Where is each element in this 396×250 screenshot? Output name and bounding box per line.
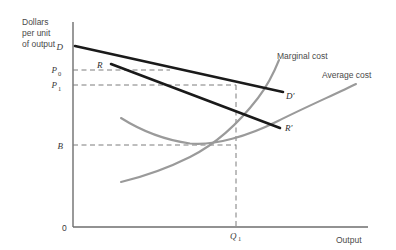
y-tick-b: B (58, 141, 64, 151)
average-cost-label: Average cost (322, 70, 372, 80)
x-tick-q1-sub: 1 (238, 235, 241, 242)
x-axis-label: Output (336, 235, 362, 245)
chart-canvas: Dollars per unit of output Output 0 D P … (0, 0, 396, 250)
y-tick-p1: P (51, 80, 58, 90)
x-tick-q1: Q (230, 231, 237, 241)
y-axis-label-line3: of output (22, 39, 56, 49)
origin-label: 0 (62, 223, 67, 233)
marginal-cost-curve (121, 60, 279, 182)
point-label-r-prime: R′ (284, 123, 293, 133)
point-label-r: R (96, 60, 103, 70)
point-label-d-prime: D′ (285, 91, 295, 101)
y-tick-p0-sub: 0 (58, 70, 61, 77)
y-axis-label-line1: Dollars (22, 17, 48, 27)
marginal-cost-label: Marginal cost (277, 51, 328, 61)
y-axis-label-line2: per unit (22, 28, 51, 38)
y-tick-p0: P (51, 65, 58, 75)
economics-cost-curve-figure: Dollars per unit of output Output 0 D P … (0, 0, 396, 250)
y-tick-p1-sub: 1 (58, 85, 61, 92)
y-tick-d: D (56, 42, 64, 52)
average-cost-curve (121, 84, 356, 144)
